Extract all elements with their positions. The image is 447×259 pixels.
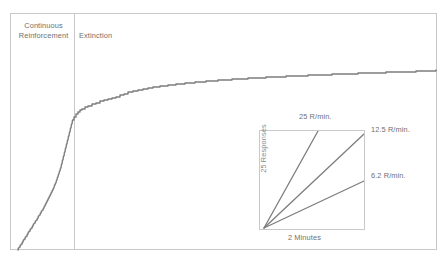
inset-y-axis-label: 25 Responses [259,111,268,187]
phase-label-cr-line1: Continuous [24,21,63,30]
inset-x-axis-label: 2 Minutes [288,233,321,242]
inset-label-rate-6-2: 6.2 R/min. [371,171,406,180]
cumulative-record-figure: Continuous Reinforcement Extinction 25 R… [0,0,447,259]
phase-label-cr-line2: Reinforcement [19,31,69,40]
phase-divider-line [74,14,75,249]
inset-label-rate-25: 25 R/min. [299,112,332,121]
phase-label-extinction: Extinction [79,31,112,41]
inset-label-rate-12-5: 12.5 R/min. [371,125,410,134]
inset-calibration-box [259,130,365,230]
phase-label-continuous-reinforcement: Continuous Reinforcement [16,21,71,40]
